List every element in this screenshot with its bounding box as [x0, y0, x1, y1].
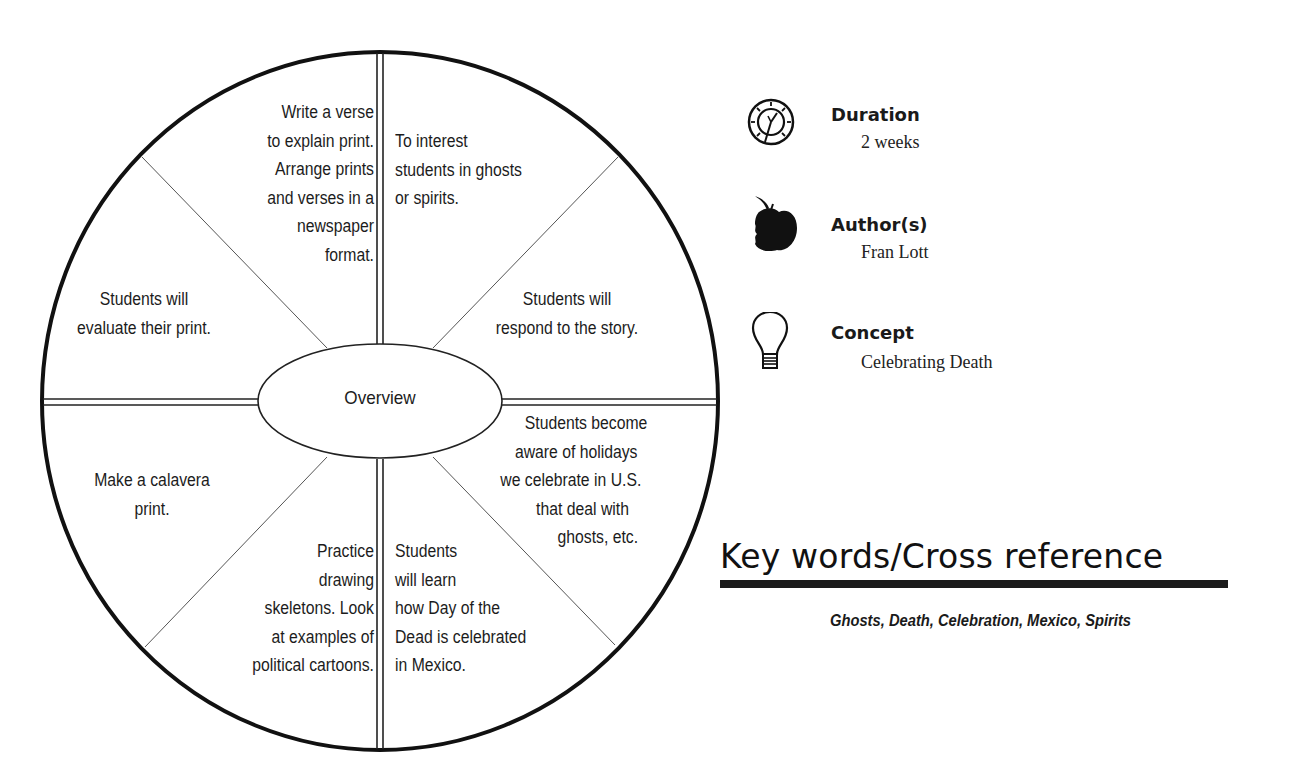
overview-wheel: Overview Write a verse to explain print.…: [0, 0, 760, 784]
segment-text: To interest: [395, 127, 575, 156]
segment-text: Dead is celebrated: [395, 623, 575, 652]
segment-text: and verses in a: [194, 184, 374, 213]
segment-text: skeletons. Look: [194, 594, 374, 623]
clock-icon: [745, 96, 801, 152]
segment-text: will learn: [395, 566, 575, 595]
overview-label: Overview: [308, 387, 452, 409]
segment-upper-right: Students will respond to the story.: [477, 285, 657, 342]
segment-text: political cartoons.: [194, 651, 374, 680]
segment-text: Students: [395, 537, 575, 566]
keywords-list: Ghosts, Death, Celebration, Mexico, Spir…: [830, 612, 1131, 630]
keywords-title: Key words/Cross reference: [720, 537, 1163, 576]
segment-text: at examples of: [194, 623, 374, 652]
lightbulb-icon: [745, 312, 801, 368]
segment-text: students in ghosts: [395, 156, 575, 185]
authors-label: Author(s): [831, 214, 928, 235]
segment-text: print.: [62, 495, 242, 524]
segment-text: or spirits.: [395, 184, 575, 213]
segment-text: Students become: [488, 409, 668, 438]
concept-value: Celebrating Death: [861, 352, 992, 373]
segment-bottom-left: Practice drawing skeletons. Look at exam…: [194, 537, 374, 680]
segment-text: evaluate their print.: [54, 314, 234, 343]
duration-value: 2 weeks: [861, 132, 919, 153]
segment-text: aware of holidays: [488, 438, 668, 467]
concept-label: Concept: [831, 322, 914, 343]
segment-text: Students will: [54, 285, 234, 314]
segment-text: how Day of the: [395, 594, 575, 623]
segment-text: Arrange prints: [194, 155, 374, 184]
duration-label: Duration: [831, 104, 920, 125]
segment-bottom-right: Students will learn how Day of the Dead …: [395, 537, 575, 680]
segment-text: newspaper: [194, 212, 374, 241]
segment-text: Students will: [477, 285, 657, 314]
apple-icon: [745, 194, 801, 250]
segment-text: to explain print.: [194, 127, 374, 156]
authors-value: Fran Lott: [861, 242, 929, 263]
segment-text: that deal with: [488, 495, 668, 524]
segment-text: format.: [194, 241, 374, 270]
segment-lower-right: Students become aware of holidays we cel…: [488, 409, 668, 552]
segment-text: Practice: [194, 537, 374, 566]
segment-upper-left: Students will evaluate their print.: [54, 285, 234, 342]
segment-lower-left: Make a calavera print.: [62, 466, 242, 523]
keywords-divider: [720, 580, 1228, 588]
segment-text: in Mexico.: [395, 651, 575, 680]
segment-text: Write a verse: [194, 98, 374, 127]
segment-top-left: Write a verse to explain print. Arrange …: [194, 98, 374, 269]
segment-top-right: To interest students in ghosts or spirit…: [395, 127, 575, 213]
segment-text: respond to the story.: [477, 314, 657, 343]
segment-text: we celebrate in U.S.: [488, 466, 668, 495]
segment-text: Make a calavera: [62, 466, 242, 495]
segment-text: drawing: [194, 566, 374, 595]
